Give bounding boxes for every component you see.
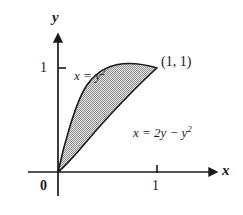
math-figure: y x 1 1 0 x = y2 x = 2y − y2 (1, 1) bbox=[0, 0, 243, 215]
right-curve-equation-text: x = 2y − y bbox=[133, 125, 187, 140]
x-tick-label-1: 1 bbox=[152, 179, 159, 193]
right-curve-exponent: 2 bbox=[187, 124, 192, 134]
x-axis-label: x bbox=[222, 163, 230, 178]
origin-label: 0 bbox=[40, 179, 47, 193]
region-fill bbox=[58, 63, 157, 172]
y-tick-label-1: 1 bbox=[40, 61, 47, 75]
plot-canvas bbox=[0, 0, 243, 215]
left-curve-equation-text: x = y bbox=[74, 68, 101, 83]
left-curve-exponent: 2 bbox=[101, 67, 106, 77]
intersection-point-label: (1, 1) bbox=[161, 55, 191, 69]
y-axis-label: y bbox=[52, 10, 59, 25]
curve-label-x-equals-y-squared: x = y2 bbox=[74, 69, 105, 82]
shaded-region bbox=[58, 63, 157, 172]
curve-label-x-equals-2y-minus-y-squared: x = 2y − y2 bbox=[133, 126, 192, 139]
